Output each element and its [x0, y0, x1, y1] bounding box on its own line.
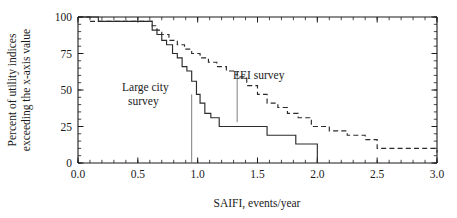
saifi-exceedance-chart: 0.00.51.01.52.02.53.0 0255075100 Large c… — [0, 0, 457, 218]
x-tick-label: 0.5 — [131, 168, 146, 180]
x-axis-title: SAIFI, events/year — [214, 197, 301, 210]
x-tick-label: 1.5 — [250, 168, 265, 180]
y-axis-title-line2: exceeding the x-axis value — [20, 29, 33, 151]
annotation-large-city-survey-line2: survey — [128, 95, 159, 108]
annotation-eei-survey: EEI survey — [233, 69, 285, 82]
x-tick-label: 2.0 — [310, 168, 325, 180]
y-tick-label: 75 — [61, 48, 73, 60]
y-tick-label: 100 — [55, 11, 73, 23]
y-tick-label: 25 — [61, 121, 73, 133]
x-tick-label: 3.0 — [430, 168, 445, 180]
x-tick-label: 1.0 — [190, 168, 205, 180]
annotation-large-city-survey-line1: Large city — [122, 81, 169, 94]
x-tick-label: 0.0 — [71, 168, 86, 180]
chart-background — [0, 0, 457, 218]
y-tick-label: 0 — [66, 157, 72, 169]
y-axis-title-line1: Percent of utility indices — [6, 33, 19, 146]
x-tick-label: 2.5 — [370, 168, 385, 180]
chart-canvas: 0.00.51.01.52.02.53.0 0255075100 Large c… — [0, 0, 457, 218]
y-tick-label: 50 — [61, 84, 73, 96]
